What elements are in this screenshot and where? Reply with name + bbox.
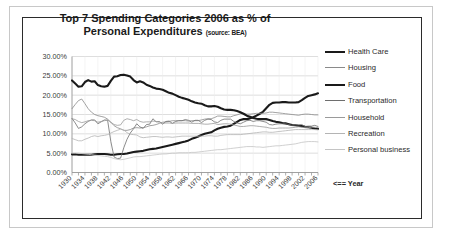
x-axis-tick-label: 1962: [160, 174, 176, 190]
legend-swatch: [325, 100, 345, 101]
legend-label: Personal business: [345, 144, 410, 154]
legend-swatch: [325, 51, 345, 53]
legend-label: Food: [345, 79, 365, 89]
x-axis-tick-label: 1970: [186, 174, 202, 190]
x-axis-tick-label: 1954: [134, 174, 150, 190]
legend-swatch: [325, 133, 345, 134]
y-axis-tick-label: 20.00%: [43, 91, 68, 100]
x-axis-tick-label: 1978: [212, 174, 228, 190]
legend-label: Health Care: [345, 46, 389, 56]
x-axis-tick-label: 1934: [70, 174, 86, 190]
x-axis-tick-label: 1950: [121, 174, 137, 190]
y-axis-tick-label: 25.00%: [43, 71, 68, 80]
series-line-personal-business: [72, 142, 318, 160]
x-axis-tick-label: 1982: [225, 174, 241, 190]
legend-item-health-care[interactable]: Health Care: [325, 46, 447, 62]
x-axis-tick-label: 2006: [303, 174, 319, 190]
y-axis-tick-label: 30.00%: [43, 52, 68, 61]
x-axis-tick-label: 1946: [109, 174, 125, 190]
legend-item-household[interactable]: Household: [325, 112, 447, 128]
y-axis-tick-label: 10.00%: [43, 129, 68, 138]
legend-label: Household: [345, 112, 384, 122]
x-axis-tick-label: 2002: [290, 174, 306, 190]
x-axis-tick-label: 1986: [238, 174, 254, 190]
x-axis-tick-label: 1990: [251, 174, 267, 190]
x-axis-tick-label: 1974: [199, 174, 215, 190]
legend-item-food[interactable]: Food: [325, 79, 447, 95]
legend-swatch: [325, 67, 345, 68]
legend-swatch: [325, 149, 345, 150]
legend-item-recreation[interactable]: Recreation: [325, 128, 447, 144]
x-axis-tick-label: 1938: [83, 174, 99, 190]
chart-legend: Health CareHousingFoodTransportationHous…: [325, 46, 447, 162]
legend-item-personal-business[interactable]: Personal business: [325, 144, 447, 162]
y-axis-tick-label: 15.00%: [43, 110, 68, 119]
legend-swatch: [325, 84, 345, 86]
legend-label: Recreation: [345, 128, 385, 138]
legend-item-housing[interactable]: Housing: [325, 62, 447, 78]
x-axis-label: <== Year: [333, 179, 364, 188]
x-axis-tick-label: 1942: [96, 174, 112, 190]
x-axis-tick-label: 1998: [277, 174, 293, 190]
legend-label: Housing: [345, 62, 376, 72]
legend-swatch: [325, 117, 345, 118]
legend-label: Transportation: [345, 95, 397, 105]
y-axis-tick-label: 5.00%: [47, 149, 68, 158]
x-axis-tick-label: 1958: [147, 174, 163, 190]
y-axis-tick-label: 0.00%: [47, 168, 68, 177]
legend-item-transportation[interactable]: Transportation: [325, 95, 447, 111]
x-axis-tick-label: 1994: [264, 174, 280, 190]
x-axis-tick-label: 1966: [173, 174, 189, 190]
